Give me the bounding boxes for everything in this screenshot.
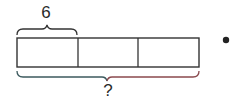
bottom-brace-right [107, 71, 199, 81]
bottom-brace-label: ? [101, 82, 115, 99]
top-brace-label: 6 [39, 4, 53, 21]
top-brace [17, 25, 77, 35]
bullet-dot [223, 37, 229, 43]
bottom-brace-left [17, 71, 107, 81]
tape-box [17, 38, 199, 67]
tape-diagram-graphic [0, 0, 243, 108]
